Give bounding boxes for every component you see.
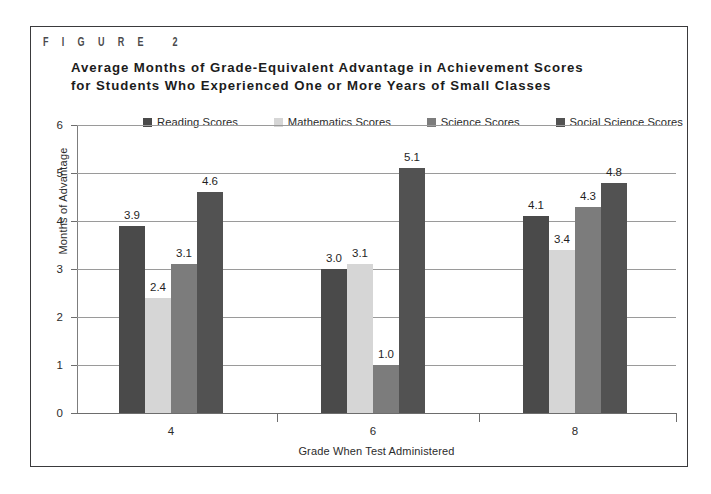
bar [523, 216, 549, 413]
bar [549, 250, 575, 413]
y-axis-tick-label: 2 [47, 311, 63, 323]
bar [171, 264, 197, 413]
bar [145, 298, 171, 413]
bar [321, 269, 347, 413]
bar [399, 168, 425, 413]
bar-value-label: 3.1 [340, 247, 380, 259]
x-axis-tick [479, 413, 480, 422]
x-axis-tick-label: 4 [141, 425, 201, 437]
bar-value-label: 4.1 [516, 199, 556, 211]
x-axis-tick-label: 8 [545, 425, 605, 437]
y-axis-title: Months of Advantage [57, 147, 69, 254]
bar-value-label: 3.9 [112, 209, 152, 221]
figure-frame: F I G U R E 2 Average Months of Grade-Eq… [30, 26, 688, 467]
y-axis-tick-label: 1 [47, 359, 63, 371]
bar [119, 226, 145, 413]
y-axis-tick-label: 0 [47, 407, 63, 419]
y-axis-tick-label: 6 [47, 119, 63, 131]
bar [575, 207, 601, 413]
bar [373, 365, 399, 413]
gridline [77, 125, 676, 126]
plot-wrapper: 0123456 3.92.43.14.643.03.11.05.164.13.4… [31, 27, 689, 468]
bar [197, 192, 223, 413]
bar-value-label: 5.1 [392, 151, 432, 163]
x-axis-tick-label: 6 [343, 425, 403, 437]
bar [347, 264, 373, 413]
gridline [77, 173, 676, 174]
y-axis-tick-label: 3 [47, 263, 63, 275]
bar-value-label: 4.8 [594, 166, 634, 178]
plot-area: 3.92.43.14.643.03.11.05.164.13.44.34.88 [77, 125, 676, 413]
x-axis-title: Grade When Test Administered [77, 445, 676, 457]
bar [601, 183, 627, 413]
x-axis-tick [676, 413, 677, 422]
gridline [77, 413, 676, 414]
bar-value-label: 4.6 [190, 175, 230, 187]
x-axis-tick [277, 413, 278, 422]
